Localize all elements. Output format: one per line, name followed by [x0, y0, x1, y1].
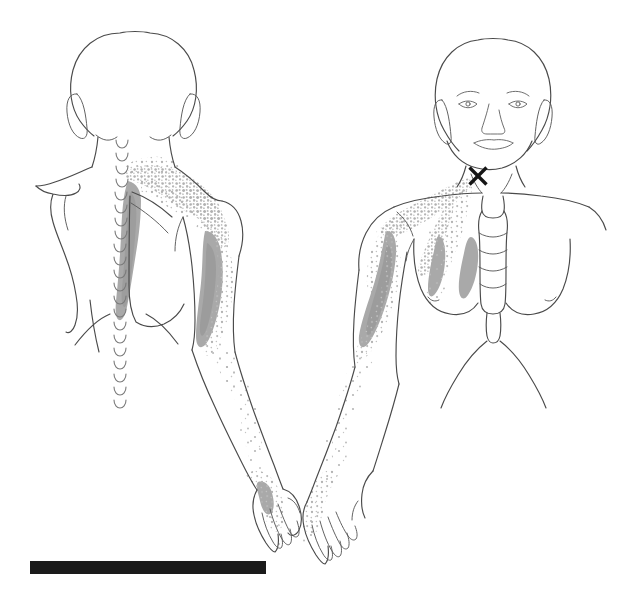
anterior-sternum-outline [479, 196, 508, 343]
anterior-clavicle-right-line [501, 193, 589, 207]
posterior-left-arm-stump-outline [36, 184, 80, 333]
posterior-cranium-outline [71, 32, 197, 137]
posterior-left-scapula-hint [64, 196, 68, 230]
posterior-shoulder-trapezius-line [36, 167, 92, 186]
anterior-axilla-crease-left [406, 239, 414, 261]
anterior-pectoral-right-contour [506, 239, 570, 315]
posterior-right-upper-arm-lateral [233, 256, 239, 352]
anterior-shoulder-right-outline [589, 207, 606, 230]
posterior-figure [36, 32, 301, 553]
anterior-pain-shading [302, 177, 478, 545]
anterior-nose-icon [482, 104, 505, 134]
posterior-right-thumb [288, 498, 300, 513]
pain-zone-parasternal-solid-medial [459, 237, 478, 298]
anterior-jaw-outline [447, 141, 532, 170]
posterior-axilla-crease [175, 217, 183, 251]
posterior-right-arm-medial [183, 217, 195, 350]
scale-bar [30, 561, 266, 574]
posterior-occipital-hairline [96, 135, 171, 140]
anterior-line-art [303, 39, 606, 565]
anterior-xiphoid-process [486, 313, 501, 343]
anterior-figure [302, 39, 606, 565]
anterior-costal-margin-left [441, 341, 487, 408]
anterior-pupil-left-icon [466, 102, 470, 106]
pain-chart-figure: Referred pain pattern — upper back, shou… [0, 0, 622, 589]
anterior-left-thumb [352, 501, 358, 520]
posterior-pain-shading [116, 156, 285, 551]
pain-chart-canvas: Referred pain pattern — upper back, shou… [0, 0, 622, 589]
anterior-mouth-icon [474, 140, 513, 150]
anterior-eyebrow-right-icon [507, 91, 529, 96]
anterior-eyebrow-left-icon [457, 91, 479, 96]
anterior-left-forearm-medial [373, 384, 399, 471]
anterior-costal-margin-right [500, 341, 546, 408]
anterior-pupil-right-icon [516, 102, 520, 106]
posterior-iliac-crest-lines [75, 314, 178, 345]
anterior-nipple-right-icon [545, 297, 556, 301]
